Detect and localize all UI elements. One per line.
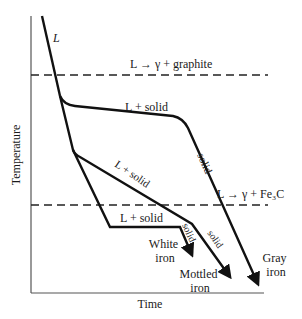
gray-plateau-label: L + solid: [125, 100, 168, 114]
y-axis-label: Temperature: [9, 125, 23, 185]
graphite-eutectic-label: L → γ + graphite: [130, 57, 212, 71]
cementite-eutectic-label: L → γ + Fe₃C: [217, 187, 284, 201]
x-axis-label: Time: [138, 297, 163, 311]
white-iron-label: White iron: [149, 237, 181, 265]
liquid-cooling-curve: [42, 16, 60, 96]
gray-solid-label: solid: [195, 151, 215, 176]
cooling-curve-diagram: L L → γ + graphite L + solid solid L + s…: [0, 0, 302, 319]
gray-iron-label: Gray iron: [263, 251, 290, 279]
liquid-label: L: [52, 31, 60, 45]
mottled-slope-label: L + solid: [113, 158, 153, 190]
mottled-iron-label: Mottled iron: [180, 267, 221, 295]
white-plateau-label: L + solid: [120, 211, 163, 225]
